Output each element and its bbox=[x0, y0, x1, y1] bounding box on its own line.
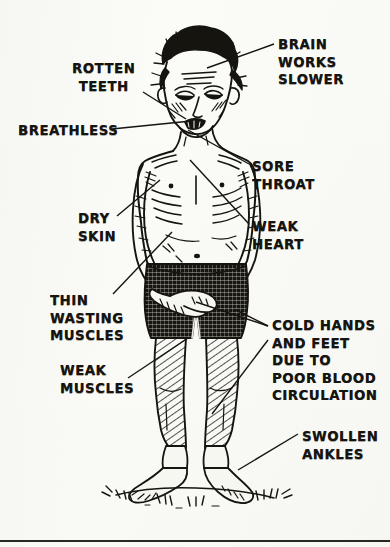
callout-line: HEART bbox=[252, 235, 304, 252]
callout-label-dry-skin: DRYSKIN bbox=[78, 210, 116, 245]
callout-label-sore-throat: SORETHROAT bbox=[252, 158, 315, 193]
callout-line: SWOLLEN bbox=[302, 428, 378, 445]
callout-line: WORKS bbox=[278, 53, 344, 70]
callout-label-brain-works-slower: BRAINWORKSSLOWER bbox=[278, 36, 344, 88]
shoulder-hatching bbox=[145, 172, 249, 187]
callout-line: TEETH bbox=[72, 77, 135, 94]
callout-line: WEAK bbox=[60, 362, 134, 379]
callout-line: POOR BLOOD bbox=[272, 369, 377, 386]
figure-body-group bbox=[102, 26, 292, 508]
abdomen-shading bbox=[163, 235, 237, 262]
callout-label-weak-heart: WEAKHEART bbox=[252, 218, 304, 253]
navel bbox=[194, 254, 200, 258]
leader-lines-group bbox=[112, 44, 298, 470]
callout-line: THIN bbox=[50, 292, 124, 309]
foot-right bbox=[204, 468, 253, 503]
callout-label-weak-muscles: WEAKMUSCLES bbox=[60, 362, 134, 397]
nose bbox=[193, 97, 202, 117]
callout-line: AND FEET bbox=[272, 334, 377, 351]
bottom-divider bbox=[0, 540, 390, 542]
callout-line: MUSCLES bbox=[60, 379, 134, 396]
leg-right bbox=[205, 338, 239, 448]
callout-line: ANKLES bbox=[302, 445, 378, 462]
leader-sore-throat bbox=[188, 130, 249, 164]
callout-line: BRAIN bbox=[278, 36, 344, 53]
forehead-lines bbox=[182, 72, 216, 84]
callout-line: THROAT bbox=[252, 175, 315, 192]
callout-line: BREATHLESS bbox=[18, 122, 118, 139]
callout-label-thin-wasting-muscles: THINWASTINGMUSCLES bbox=[50, 292, 124, 344]
callout-line: WASTING bbox=[50, 309, 124, 326]
callout-label-rotten-teeth: ROTTENTEETH bbox=[72, 60, 135, 95]
callout-line: CIRCULATION bbox=[272, 386, 377, 403]
callout-label-cold-hands-and-feet: COLD HANDSAND FEETDUE TOPOOR BLOODCIRCUL… bbox=[272, 317, 377, 404]
callout-line: MUSCLES bbox=[50, 327, 124, 344]
callout-label-breathless: BREATHLESS bbox=[18, 122, 118, 139]
callout-line: ROTTEN bbox=[72, 60, 135, 77]
leg-left bbox=[155, 338, 187, 448]
neck bbox=[173, 132, 181, 151]
callout-line: SLOWER bbox=[278, 71, 344, 88]
callout-line: DRY bbox=[78, 210, 116, 227]
callout-line: DUE TO bbox=[272, 352, 377, 369]
rib-lines bbox=[152, 188, 242, 224]
callout-label-swollen-ankles: SWOLLENANKLES bbox=[302, 428, 378, 463]
callout-line: SKIN bbox=[78, 227, 116, 244]
leader-swollen bbox=[238, 434, 298, 470]
callout-line: COLD HANDS bbox=[272, 317, 377, 334]
callout-line: SORE bbox=[252, 158, 315, 175]
diagram-page: BRAINWORKSSLOWERROTTENTEETHBREATHLESSSOR… bbox=[0, 0, 390, 547]
ear-right bbox=[230, 88, 239, 104]
nipple-left bbox=[169, 184, 174, 189]
ground-grass bbox=[102, 486, 292, 506]
nipple-right bbox=[220, 183, 225, 188]
callout-line: WEAK bbox=[252, 218, 304, 235]
